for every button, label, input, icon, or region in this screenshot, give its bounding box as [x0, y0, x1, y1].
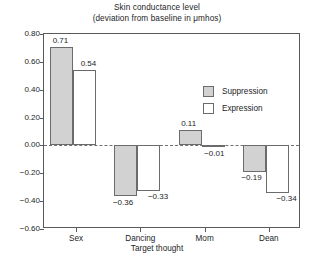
- bar-value-label: 0.54: [81, 60, 97, 68]
- legend-swatch-expression: [203, 103, 214, 114]
- chart-title: Skin conductance level (deviation from b…: [0, 3, 314, 24]
- y-tick-mark: [40, 34, 44, 35]
- bar-value-label: −0.34: [276, 195, 296, 203]
- y-tick-mark: [40, 201, 44, 202]
- plot-area: Suppression Expression 0.800.600.400.200…: [43, 33, 300, 228]
- bar-value-label: −0.01: [204, 150, 224, 158]
- y-tick-label: −0.40: [20, 197, 40, 205]
- bar-value-label: −0.33: [148, 193, 168, 201]
- bar-value-label: 0.11: [181, 120, 196, 128]
- y-tick-label: 0.80: [24, 30, 40, 38]
- bar-value-label: 0.71: [53, 37, 69, 45]
- y-tick-label: −0.60: [20, 225, 40, 233]
- bar-dean-expression: [266, 145, 289, 192]
- bar-dancing-expression: [137, 145, 160, 191]
- legend-label-expression: Expression: [222, 103, 263, 114]
- y-tick-label: 0.20: [24, 114, 40, 122]
- x-tick-mark: [76, 227, 77, 232]
- x-tick-label: Mom: [196, 234, 214, 243]
- x-tick-mark: [269, 227, 270, 232]
- y-tick-label: −0.20: [20, 169, 40, 177]
- x-tick-mark: [140, 227, 141, 232]
- bar-value-label: −0.19: [241, 174, 261, 182]
- bar-sex-expression: [73, 70, 96, 145]
- y-tick-label: 0.00: [24, 141, 40, 149]
- chart-figure: Skin conductance level (deviation from b…: [0, 0, 314, 261]
- x-tick-mark: [205, 227, 206, 232]
- chart-title-line1: Skin conductance level: [114, 3, 200, 12]
- y-tick-mark: [40, 90, 44, 91]
- bar-mom-suppression: [179, 130, 202, 145]
- bar-dancing-suppression: [114, 145, 137, 195]
- bar-value-label: −0.36: [113, 199, 133, 207]
- y-tick-label: 0.40: [24, 86, 40, 94]
- bar-sex-suppression: [50, 47, 73, 146]
- x-tick-label: Dean: [259, 234, 279, 243]
- bar-mom-expression: [202, 145, 225, 147]
- y-tick-mark: [40, 62, 44, 63]
- y-tick-mark: [40, 229, 44, 230]
- chart-subtitle: (deviation from baseline in μmhos): [0, 14, 314, 25]
- x-tick-label: Dancing: [125, 234, 155, 243]
- y-tick-mark: [40, 173, 44, 174]
- x-axis-title: Target thought: [0, 244, 314, 253]
- x-tick-label: Sex: [69, 234, 83, 243]
- legend-swatch-suppression: [203, 86, 214, 97]
- bar-dean-suppression: [243, 145, 266, 171]
- y-tick-mark: [40, 118, 44, 119]
- page-caption-partial: [8, 256, 306, 261]
- legend-label-suppression: Suppression: [222, 86, 268, 97]
- y-tick-label: 0.60: [24, 58, 40, 66]
